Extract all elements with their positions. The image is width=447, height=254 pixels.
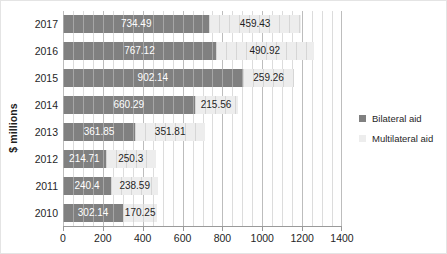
bar-value-label: 238.59 — [119, 181, 150, 191]
bar-value-label: 351.81 — [155, 127, 186, 137]
x-tick — [183, 227, 184, 231]
bar-row: 902.14259.26 — [63, 65, 342, 92]
y-axis-title: $ millions — [3, 1, 23, 254]
bar-segment-bilateral-2012[interactable]: 214.71 — [63, 150, 106, 168]
bar-value-label: 902.14 — [138, 73, 169, 83]
bar-segment-multilateral-2011[interactable]: 238.59 — [111, 177, 159, 195]
x-axis-tick-labels: 0200400600800100012001400 — [63, 232, 342, 248]
bar-segment-multilateral-2013[interactable]: 351.81 — [135, 123, 205, 141]
bar-value-label: 490.92 — [249, 46, 280, 56]
bar-track: 902.14259.26 — [63, 69, 342, 87]
x-tick-label-1000: 1000 — [251, 232, 274, 244]
bar-value-label: 214.71 — [69, 154, 100, 164]
x-tick-label-1200: 1200 — [290, 232, 313, 244]
bar-value-label: 767.12 — [124, 46, 155, 56]
bar-row: 302.14170.25 — [63, 199, 342, 226]
bar-row: 240.4238.59 — [63, 172, 342, 199]
bar-value-label: 215.56 — [201, 100, 232, 110]
category-label-2017: 2017 — [23, 11, 63, 38]
y-axis-title-label: $ millions — [7, 103, 19, 152]
bar-segment-multilateral-2010[interactable]: 170.25 — [123, 204, 157, 222]
chart-container: $ millions 20172016201520142013201220112… — [0, 0, 447, 254]
bar-segment-bilateral-2016[interactable]: 767.12 — [63, 42, 216, 60]
category-label-2013: 2013 — [23, 119, 63, 146]
x-tick — [222, 227, 223, 231]
bar-track: 361.85351.81 — [63, 123, 342, 141]
bar-value-label: 250.3 — [118, 154, 143, 164]
x-tick — [302, 227, 303, 231]
bar-segment-bilateral-2011[interactable]: 240.4 — [63, 177, 111, 195]
legend-label: Bilateral aid — [372, 113, 422, 124]
bar-segment-bilateral-2017[interactable]: 734.49 — [63, 15, 209, 33]
bar-value-label: 302.14 — [78, 208, 109, 218]
bar-track: 660.29215.56 — [63, 96, 342, 114]
bar-row: 660.29215.56 — [63, 92, 342, 119]
legend-entry[interactable]: Bilateral aid — [359, 113, 445, 124]
category-label-2010: 2010 — [23, 199, 63, 226]
bar-segment-multilateral-2017[interactable]: 459.43 — [209, 15, 301, 33]
bar-track: 214.71250.3 — [63, 150, 342, 168]
bar-segment-bilateral-2010[interactable]: 302.14 — [63, 204, 123, 222]
bar-segment-bilateral-2015[interactable]: 902.14 — [63, 69, 243, 87]
bar-row: 767.12490.92 — [63, 38, 342, 65]
category-label-2014: 2014 — [23, 92, 63, 119]
bar-value-label: 259.26 — [253, 73, 284, 83]
plot-area: 734.49459.43767.12490.92902.14259.26660.… — [63, 11, 342, 226]
bar-track: 734.49459.43 — [63, 15, 342, 33]
category-label-2012: 2012 — [23, 145, 63, 172]
category-label-2015: 2015 — [23, 65, 63, 92]
x-tick — [143, 227, 144, 231]
bars-layer: 734.49459.43767.12490.92902.14259.26660.… — [63, 11, 342, 226]
bar-track: 767.12490.92 — [63, 42, 342, 60]
chart-legend: Bilateral aidMultilateral aid — [359, 113, 445, 153]
x-tick — [103, 227, 104, 231]
x-tick-label-600: 600 — [174, 232, 192, 244]
x-tick — [63, 227, 64, 231]
legend-swatch-icon — [359, 135, 366, 142]
bar-segment-bilateral-2013[interactable]: 361.85 — [63, 123, 135, 141]
bar-value-label: 361.85 — [84, 127, 115, 137]
bar-row: 214.71250.3 — [63, 145, 342, 172]
x-tick-label-200: 200 — [94, 232, 112, 244]
bar-track: 302.14170.25 — [63, 204, 342, 222]
bar-segment-multilateral-2015[interactable]: 259.26 — [243, 69, 295, 87]
bar-row: 734.49459.43 — [63, 11, 342, 38]
x-tick-label-800: 800 — [214, 232, 232, 244]
x-tick — [341, 227, 342, 231]
bar-value-label: 459.43 — [240, 19, 271, 29]
bar-value-label: 170.25 — [125, 208, 156, 218]
x-tick-label-1400: 1400 — [330, 232, 353, 244]
category-label-2016: 2016 — [23, 38, 63, 65]
x-tick-label-0: 0 — [60, 232, 66, 244]
category-axis: 20172016201520142013201220112010 — [23, 11, 63, 226]
legend-entry[interactable]: Multilateral aid — [359, 133, 445, 144]
bar-track: 240.4238.59 — [63, 177, 342, 195]
bar-segment-bilateral-2014[interactable]: 660.29 — [63, 96, 195, 114]
bar-value-label: 240.4 — [74, 181, 99, 191]
category-label-2011: 2011 — [23, 172, 63, 199]
x-axis-ticks — [63, 227, 342, 231]
bar-value-label: 660.29 — [113, 100, 144, 110]
bar-segment-multilateral-2012[interactable]: 250.3 — [106, 150, 156, 168]
bar-segment-multilateral-2016[interactable]: 490.92 — [216, 42, 314, 60]
legend-label: Multilateral aid — [372, 133, 433, 144]
bar-value-label: 734.49 — [121, 19, 152, 29]
x-tick — [262, 227, 263, 231]
x-tick-label-400: 400 — [134, 232, 152, 244]
bar-row: 361.85351.81 — [63, 119, 342, 146]
legend-swatch-icon — [359, 115, 366, 122]
bar-segment-multilateral-2014[interactable]: 215.56 — [195, 96, 238, 114]
